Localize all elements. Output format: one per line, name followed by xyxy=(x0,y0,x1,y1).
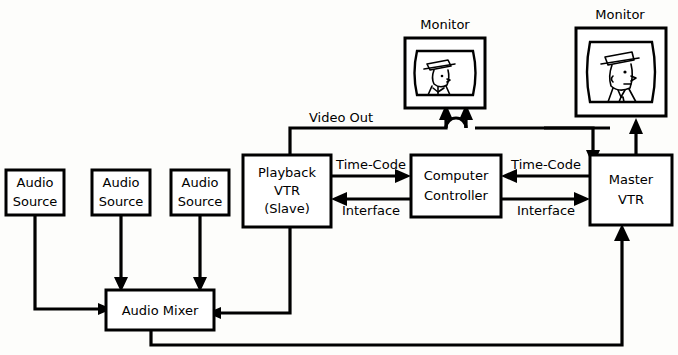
timecode-right-label: Time-Code xyxy=(510,157,581,172)
video-out-label: Video Out xyxy=(309,110,373,125)
playback-vtr-label-line3: (Slave) xyxy=(264,201,310,216)
wire-mixer-to-mastervtr xyxy=(151,224,630,345)
block-diagram: Monitor Monitor xyxy=(0,0,678,355)
audio-source-3-label-line2: Source xyxy=(178,194,223,209)
wire-mastervtr-to-monitor-right xyxy=(629,118,643,155)
timecode-left-label: Time-Code xyxy=(335,157,406,172)
audio-source-1-label-line2: Source xyxy=(13,194,58,209)
master-vtr-label-line2: VTR xyxy=(618,192,644,207)
playback-vtr-label-line2: VTR xyxy=(274,183,300,198)
interface-right-label: Interface xyxy=(517,203,575,218)
interface-left-label: Interface xyxy=(342,203,400,218)
audio-source-1-label-line1: Audio xyxy=(17,175,54,190)
node-computer-controller[interactable] xyxy=(411,155,501,217)
wire-playbackvtr-to-mixer xyxy=(207,227,290,319)
node-monitor-right[interactable] xyxy=(576,28,666,116)
monitor-right-label: Monitor xyxy=(595,7,645,22)
computer-controller-label-line2: Controller xyxy=(424,188,489,203)
wire-audiosource2-to-mixer xyxy=(114,215,128,292)
audio-source-2-label-line1: Audio xyxy=(103,175,140,190)
audio-mixer-label: Audio Mixer xyxy=(122,303,199,318)
monitor-left-label: Monitor xyxy=(420,17,470,32)
audio-source-3-label-line1: Audio xyxy=(182,175,219,190)
wire-audiosource3-to-mixer xyxy=(193,215,207,292)
master-vtr-label-line1: Master xyxy=(609,172,654,187)
wire-audiosource1-to-mixer xyxy=(35,215,112,315)
node-monitor-left[interactable] xyxy=(405,38,485,108)
playback-vtr-label-line1: Playback xyxy=(258,165,316,180)
node-master-vtr[interactable] xyxy=(590,155,672,225)
audio-source-2-label-line2: Source xyxy=(99,194,144,209)
computer-controller-label-line1: Computer xyxy=(424,168,489,183)
